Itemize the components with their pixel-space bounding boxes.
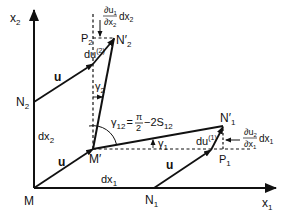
point-n2-label: N2 bbox=[16, 95, 30, 111]
svg-text:2: 2 bbox=[136, 123, 141, 133]
x1-axis-label: x1 bbox=[262, 196, 273, 212]
point-n1-label: N1 bbox=[145, 193, 159, 209]
u-label-m: u bbox=[58, 155, 65, 169]
svg-text:∂x2: ∂x2 bbox=[104, 17, 117, 28]
point-n1-prime-label: N′1 bbox=[220, 111, 236, 127]
point-p1-label: P1 bbox=[219, 153, 231, 168]
svg-text:∂u2: ∂u2 bbox=[244, 127, 257, 138]
svg-text:∂x1: ∂x1 bbox=[244, 139, 257, 150]
svg-text:γ12=: γ12= bbox=[111, 116, 133, 131]
du2-dx1-gradient-label: ∂u2 ∂x1 dx1 bbox=[243, 127, 274, 150]
u-vector-n1 bbox=[154, 150, 211, 188]
shear-strain-diagram: x2 x1 M M′ N1 N2 N′1 N′2 P1 P2 u u u du(… bbox=[0, 0, 289, 213]
gamma2-label: γ2 bbox=[95, 80, 106, 95]
gamma12-equation: γ12= π 2 −2S12 bbox=[111, 112, 173, 133]
point-p2-label: P2 bbox=[81, 32, 93, 47]
dx2-label: dx2 bbox=[38, 130, 55, 145]
svg-text:dx2: dx2 bbox=[119, 11, 134, 23]
gamma1-label: γ1 bbox=[158, 137, 169, 152]
du2-label: du(2) bbox=[84, 47, 105, 60]
u-label-n2: u bbox=[54, 70, 61, 84]
point-m-label: M bbox=[24, 194, 34, 208]
svg-text:dx1: dx1 bbox=[259, 133, 274, 145]
svg-text:π: π bbox=[136, 112, 142, 122]
u-vector-n2 bbox=[34, 64, 93, 102]
x2-axis-label: x2 bbox=[10, 11, 21, 27]
point-m-prime-label: M′ bbox=[89, 152, 102, 166]
point-n2-prime-label: N′2 bbox=[116, 33, 132, 49]
svg-text:−2S12: −2S12 bbox=[144, 116, 173, 131]
dx1-label: dx1 bbox=[101, 173, 118, 188]
svg-text:∂u1: ∂u1 bbox=[104, 5, 117, 16]
du1-dx2-gradient-label: ∂u1 ∂x2 dx2 bbox=[103, 5, 134, 28]
u-label-n1: u bbox=[166, 158, 173, 172]
